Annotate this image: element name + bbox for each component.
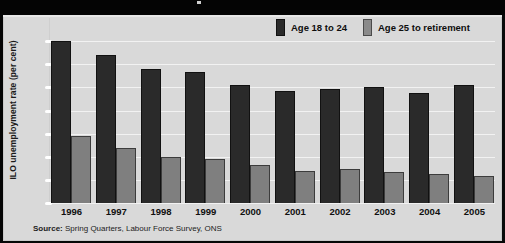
x-axis-label-2001: 2001 <box>275 205 316 221</box>
bar-1999-older <box>205 159 225 203</box>
bar-group <box>409 18 450 203</box>
bar-2003-older <box>384 172 404 203</box>
bar-group <box>275 18 316 203</box>
top-black-band <box>0 0 505 14</box>
x-axis-label-1997: 1997 <box>96 205 137 221</box>
bar-group <box>454 18 495 203</box>
legend-label: Age 18 to 24 <box>291 22 347 33</box>
bar-1997-older <box>116 148 136 204</box>
x-axis-label-2002: 2002 <box>320 205 361 221</box>
plot-area <box>51 18 495 203</box>
bar-2001-young <box>275 91 295 203</box>
bar-group <box>96 18 137 203</box>
bar-2000-young <box>230 85 250 203</box>
bar-2004-older <box>429 174 449 203</box>
bar-group <box>141 18 182 203</box>
bar-group <box>230 18 271 203</box>
x-axis-label-2004: 2004 <box>409 205 450 221</box>
bar-group <box>51 18 92 203</box>
legend-label: Age 25 to retirement <box>378 22 470 33</box>
title-fragment-speck <box>197 1 201 4</box>
source-label: Source: <box>33 224 63 233</box>
bar-2001-older <box>295 171 315 203</box>
bar-2002-older <box>340 169 360 203</box>
legend-swatch-dark <box>276 19 285 36</box>
x-axis-label-1996: 1996 <box>51 205 92 221</box>
source-text: Spring Quarters, Labour Force Survey, ON… <box>65 224 222 233</box>
x-axis-label-2003: 2003 <box>364 205 405 221</box>
bar-1996-older <box>71 136 91 203</box>
bar-2003-young <box>364 87 384 203</box>
bar-1999-young <box>185 72 205 203</box>
x-axis-label-1998: 1998 <box>141 205 182 221</box>
bar-group <box>364 18 405 203</box>
bar-1997-young <box>96 55 116 203</box>
legend-item: Age 25 to retirement <box>363 19 470 36</box>
bar-2002-young <box>320 89 340 203</box>
bar-1996-young <box>51 41 71 203</box>
bar-groups <box>51 18 495 203</box>
y-axis-title-text: ILO unemployment rate (per cent) <box>8 40 18 179</box>
gridline <box>51 203 495 204</box>
panel-top-highlight <box>3 15 502 17</box>
source-note: Source: Spring Quarters, Labour Force Su… <box>33 224 222 233</box>
bar-1998-older <box>161 157 181 203</box>
bar-2005-young <box>454 85 474 203</box>
x-axis-label-2005: 2005 <box>454 205 495 221</box>
bar-2005-older <box>474 176 494 203</box>
chart-screenshot: ILO unemployment rate (per cent) 1996199… <box>0 0 505 243</box>
chart-legend: Age 18 to 24Age 25 to retirement <box>276 18 470 36</box>
y-axis-title: ILO unemployment rate (per cent) <box>6 20 20 200</box>
x-axis-label-2000: 2000 <box>230 205 271 221</box>
bar-2000-older <box>250 165 270 203</box>
legend-swatch-grey <box>363 19 372 36</box>
bar-2004-young <box>409 93 429 203</box>
bar-1998-young <box>141 69 161 203</box>
x-axis-labels: 1996199719981999200020012002200320042005 <box>51 205 495 221</box>
bar-group <box>185 18 226 203</box>
legend-item: Age 18 to 24 <box>276 19 347 36</box>
bar-group <box>320 18 361 203</box>
x-axis-label-1999: 1999 <box>185 205 226 221</box>
